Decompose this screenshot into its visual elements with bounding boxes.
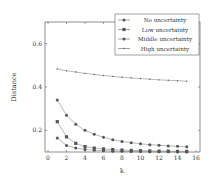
data-point-middle-uncertainty <box>74 123 77 126</box>
data-point-middle-uncertainty <box>65 114 68 117</box>
y-axis-label: Distance <box>10 72 18 101</box>
series-high-uncertainty <box>57 68 188 82</box>
data-point-middle-uncertainty <box>102 136 105 139</box>
data-point-low-uncertainty <box>130 149 133 152</box>
data-point-high-uncertainty <box>186 80 187 81</box>
data-point-middle-uncertainty <box>93 133 96 136</box>
data-point-low-uncertainty <box>176 150 179 153</box>
x-tick-label: 12 <box>155 154 163 161</box>
data-point-no-uncertainty <box>65 144 68 147</box>
data-point-middle-uncertainty <box>176 145 179 148</box>
data-point-no-uncertainty <box>84 148 87 151</box>
data-point-low-uncertainty <box>102 147 105 150</box>
data-point-high-uncertainty <box>177 80 178 81</box>
data-point-middle-uncertainty <box>121 140 124 143</box>
data-point-high-uncertainty <box>140 78 141 79</box>
data-point-low-uncertainty <box>74 142 77 145</box>
legend-marker-middle-uncertainty <box>123 38 126 41</box>
legend-marker-low-uncertainty <box>122 28 125 31</box>
legend-label-middle-uncertainty: Middle uncertainty <box>138 36 193 43</box>
legend: No uncertaintyLow uncertaintyMiddle unce… <box>115 14 199 55</box>
x-tick-label: 10 <box>137 154 145 161</box>
data-point-middle-uncertainty <box>148 143 151 146</box>
data-point-low-uncertainty <box>93 147 96 150</box>
data-point-middle-uncertainty <box>56 99 59 102</box>
data-point-middle-uncertainty <box>111 138 114 141</box>
data-point-high-uncertainty <box>149 79 150 80</box>
data-point-high-uncertainty <box>168 80 169 81</box>
x-tick-label: 2 <box>65 154 69 161</box>
y-tick-label: 0.6 <box>32 40 42 47</box>
data-point-high-uncertainty <box>121 77 122 78</box>
series-middle-uncertainty <box>56 99 189 149</box>
legend-label-no-uncertainty: No uncertainty <box>144 17 188 24</box>
data-point-low-uncertainty <box>120 148 123 151</box>
series-layer <box>56 68 189 153</box>
data-point-middle-uncertainty <box>167 144 170 147</box>
data-point-low-uncertainty <box>148 149 151 152</box>
x-tick-label: 14 <box>174 154 182 161</box>
x-tick-label: 6 <box>102 154 106 161</box>
data-point-no-uncertainty <box>56 136 59 139</box>
data-point-high-uncertainty <box>84 73 85 74</box>
y-tick-label: 0.2 <box>32 126 42 133</box>
data-point-high-uncertainty <box>158 79 159 80</box>
legend-marker-high-uncertainty <box>123 48 124 49</box>
data-point-low-uncertainty <box>167 150 170 153</box>
data-point-middle-uncertainty <box>84 129 87 132</box>
legend-label-low-uncertainty: Low uncertainty <box>142 27 189 34</box>
data-point-middle-uncertainty <box>185 145 188 148</box>
data-point-low-uncertainty <box>65 135 68 138</box>
data-point-middle-uncertainty <box>139 142 142 145</box>
data-point-high-uncertainty <box>94 74 95 75</box>
x-axis-label: k <box>120 167 124 175</box>
x-tick-label: 8 <box>120 154 124 161</box>
data-point-low-uncertainty <box>56 120 59 123</box>
legend-label-high-uncertainty: High uncertainty <box>141 46 190 53</box>
data-point-low-uncertainty <box>185 150 188 153</box>
data-point-low-uncertainty <box>157 150 160 153</box>
data-point-high-uncertainty <box>57 68 58 69</box>
data-point-middle-uncertainty <box>130 141 133 144</box>
data-point-low-uncertainty <box>83 145 86 148</box>
data-point-middle-uncertainty <box>158 144 161 147</box>
x-tick-label: 4 <box>83 154 87 161</box>
data-point-low-uncertainty <box>111 148 114 151</box>
data-point-low-uncertainty <box>139 149 142 152</box>
data-point-high-uncertainty <box>103 75 104 76</box>
series-line-high-uncertainty <box>57 69 187 81</box>
data-point-high-uncertainty <box>112 76 113 77</box>
x-tick-label: 0 <box>46 154 50 161</box>
data-point-high-uncertainty <box>66 70 67 71</box>
legend-marker-no-uncertainty <box>123 19 126 22</box>
data-point-high-uncertainty <box>131 77 132 78</box>
x-tick-label: 16 <box>192 154 200 161</box>
y-tick-label: 0.4 <box>32 83 42 90</box>
data-point-no-uncertainty <box>74 147 77 150</box>
data-point-high-uncertainty <box>75 71 76 72</box>
chart: 0246810121416 0.20.40.6 k Distance No un… <box>0 0 216 179</box>
